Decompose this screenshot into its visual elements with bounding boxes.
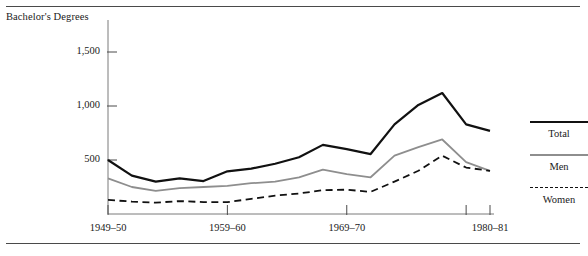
legend-line-sample <box>530 121 588 123</box>
legend-swatch-total <box>530 118 588 127</box>
y-tick-label: 1,500 <box>40 45 100 56</box>
chart-series-group <box>108 93 490 203</box>
legend-swatch-women <box>530 184 588 193</box>
x-tick-label: 1949–50 <box>63 222 153 233</box>
bottom-rule <box>6 243 580 244</box>
x-tick-label: 1959–60 <box>182 222 272 233</box>
series-line-total <box>108 93 490 182</box>
legend-swatch-men <box>530 151 588 160</box>
legend-entry-men: Men <box>530 151 588 173</box>
series-line-men <box>108 139 490 190</box>
legend-label: Total <box>530 127 588 140</box>
series-line-women <box>108 156 490 203</box>
legend-label: Women <box>530 193 588 206</box>
legend-entry-women: Women <box>530 184 588 206</box>
x-tick-label: 1980–81 <box>445 222 535 233</box>
legend-line-sample <box>530 154 588 156</box>
y-tick-label: 1,000 <box>40 99 100 110</box>
legend-entry-total: Total <box>530 118 588 140</box>
legend-label: Men <box>530 160 588 173</box>
chart-axes <box>107 20 494 215</box>
x-tick-label: 1969–70 <box>302 222 392 233</box>
legend-line-sample <box>530 187 588 188</box>
y-tick-label: 500 <box>40 153 100 164</box>
